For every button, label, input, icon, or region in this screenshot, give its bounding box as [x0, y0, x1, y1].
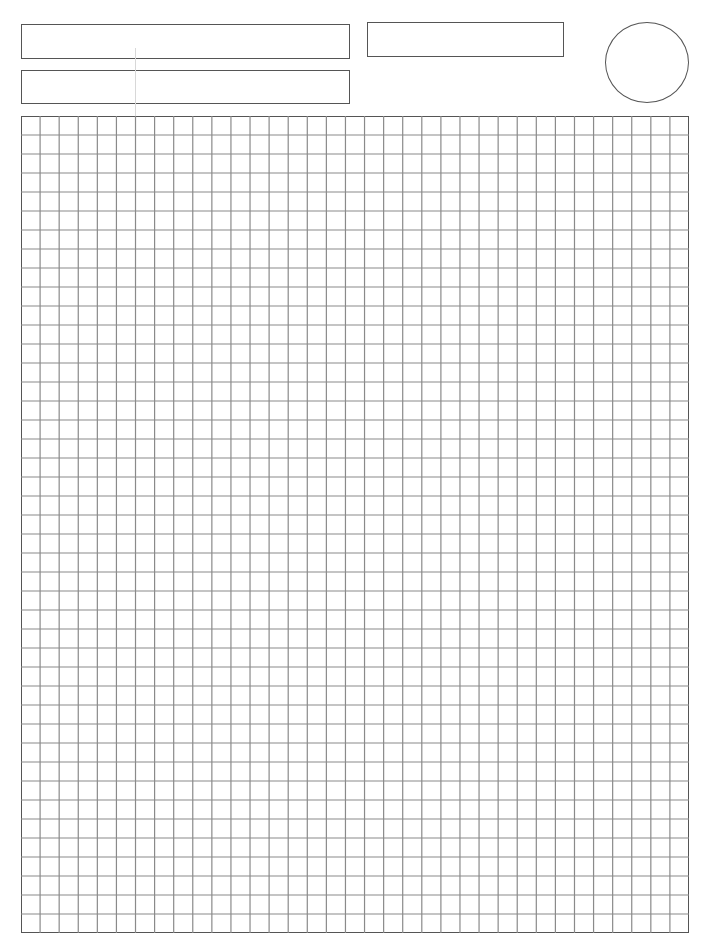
faint-scan-line	[135, 48, 136, 116]
graph-paper-grid	[21, 116, 689, 933]
header-field-box-3	[367, 22, 564, 57]
header-field-box-1	[21, 24, 350, 59]
header-circle	[605, 22, 689, 103]
header-field-box-2	[21, 70, 350, 104]
